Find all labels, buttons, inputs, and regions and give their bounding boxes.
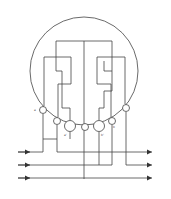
terminal-6 (109, 118, 116, 125)
label-t1: a (34, 108, 36, 112)
left-current-coil (44, 57, 71, 106)
terminal-1 (40, 107, 47, 114)
terminal-7 (123, 105, 130, 112)
terminal-3 (65, 121, 76, 132)
terminal-2 (54, 118, 61, 125)
terminal-4 (82, 124, 89, 131)
label-t3: a' (64, 133, 67, 137)
label-t6: b (113, 125, 115, 129)
terminal-5 (94, 121, 105, 132)
wiring-diagram: a a' b' b (0, 0, 171, 199)
label-t5: b' (101, 133, 104, 137)
